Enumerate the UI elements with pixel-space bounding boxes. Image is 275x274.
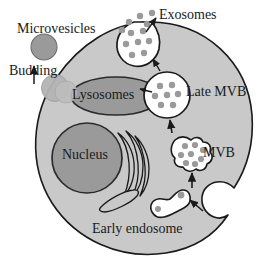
- microvesicle: [31, 34, 57, 60]
- label-microvesicles: Microvesicles: [17, 22, 96, 36]
- label-exosomes: Exosomes: [159, 8, 217, 22]
- label-nucleus: Nucleus: [62, 148, 108, 162]
- figure-canvas: Microvesicles Budding Exosomes Late MVB …: [0, 0, 275, 274]
- late-mvb: [144, 72, 190, 118]
- label-lysosomes: Lysosomes: [72, 88, 134, 102]
- label-late-mvb: Late MVB: [186, 85, 246, 99]
- label-early-endosome: Early endosome: [92, 222, 183, 236]
- label-mvb: MVB: [203, 146, 235, 160]
- label-budding: Budding: [9, 64, 57, 78]
